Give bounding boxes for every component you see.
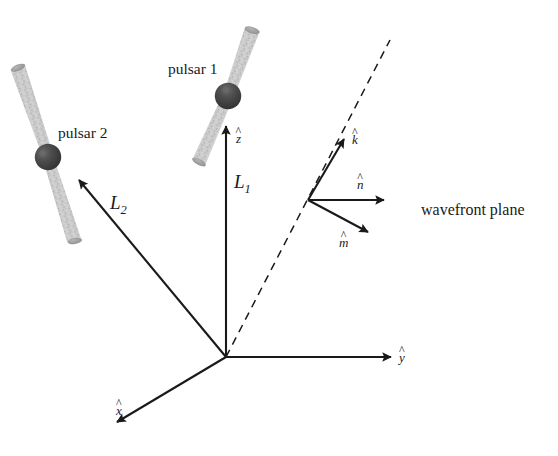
pulsar-2-sphere [32,141,64,173]
L2-subscript: 2 [121,203,127,217]
pulsar-2-label: pulsar 2 [58,125,108,141]
z-hat-caret: ^ [236,126,242,138]
x-hat-caret: ^ [116,398,122,410]
pulsar-2-graphic [9,59,84,249]
L1-label: L1 [234,172,251,195]
pulsar-2-beam-lower [44,160,83,247]
L2-base: L [110,192,121,213]
L2-label: L2 [110,193,127,216]
m-hat-label: ^m [339,236,348,249]
n-hat-caret: ^ [357,172,363,184]
z-hat-label: ^z [236,132,241,145]
L1-subscript: 1 [245,182,251,196]
x-axis-arrow [117,357,226,422]
figure-root: pulsar 1 pulsar 2 wavefront plane L1 L2 … [0,0,558,456]
x-hat-label: ^x [116,404,122,417]
pulsar-2-beam-upper [9,61,52,155]
pulsar-1-sphere [211,79,246,114]
diagram-canvas [0,0,558,456]
k-hat-arrow [308,139,344,200]
m-hat-caret: ^ [341,230,347,242]
pulsar-1-beam-upper [220,23,262,92]
L1-base: L [234,171,245,192]
k-hat-label: ^k [352,133,358,146]
k-hat-caret: ^ [352,127,358,139]
pulsar-1-label: pulsar 1 [168,61,218,77]
wavefront-plane-label: wavefront plane [421,202,525,218]
n-hat-label: ^n [357,178,364,191]
m-hat-arrow [308,200,368,232]
L2-line-of-sight-arrow [79,180,226,357]
y-hat-label: ^y [399,351,405,364]
pulsar-1-graphic [186,23,269,171]
y-hat-caret: ^ [399,345,405,357]
